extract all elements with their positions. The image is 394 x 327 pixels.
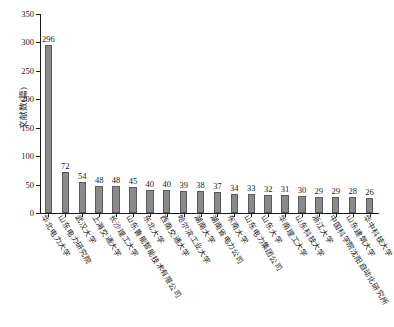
bar-item: 72: [62, 14, 69, 213]
bar-value-label: 30: [298, 186, 307, 195]
bar-item: 34: [231, 14, 238, 213]
bar: [315, 197, 322, 213]
bar-value-label: 26: [365, 188, 374, 197]
bar-item: 31: [281, 14, 288, 213]
bar-value-label: 37: [213, 182, 222, 191]
bar: [62, 172, 69, 213]
bar-item: 37: [214, 14, 221, 213]
bar-value-label: 38: [196, 181, 205, 190]
bar-value-label: 48: [112, 176, 121, 185]
bar-value-label: 48: [95, 176, 104, 185]
bar: [298, 196, 305, 213]
bar-item: 54: [79, 14, 86, 213]
bar: [146, 190, 153, 213]
bar-item: 39: [180, 14, 187, 213]
bar-value-label: 29: [332, 187, 341, 196]
bar: [129, 187, 136, 213]
bar-item: 33: [248, 14, 255, 213]
bar-value-label: 40: [146, 180, 155, 189]
y-tick-label: 150: [21, 123, 34, 132]
y-tick-label: 200: [21, 95, 34, 104]
bar-value-label: 296: [42, 35, 55, 44]
bar-value-label: 39: [179, 181, 188, 190]
bar-item: 26: [366, 14, 373, 213]
bar-value-label: 31: [281, 185, 290, 194]
bar: [248, 194, 255, 213]
bar-value-label: 33: [247, 184, 256, 193]
y-tick-label: 300: [21, 38, 34, 47]
bar: [112, 186, 119, 213]
bar-value-label: 28: [348, 187, 357, 196]
bar: [264, 195, 271, 213]
bar: [332, 197, 339, 213]
bar-series: 2967254484845404039383734333231302929282…: [40, 14, 378, 213]
y-tick-label: 250: [21, 67, 34, 76]
bar: [349, 197, 356, 213]
bar-item: 30: [298, 14, 305, 213]
bar-item: 48: [95, 14, 102, 213]
bar-item: 45: [129, 14, 136, 213]
bar-value-label: 40: [163, 180, 172, 189]
bar-value-label: 72: [61, 162, 70, 171]
bar-item: 38: [197, 14, 204, 213]
bar: [281, 195, 288, 213]
bar-value-label: 34: [230, 184, 239, 193]
bar: [214, 192, 221, 213]
bar-item: 296: [45, 14, 52, 213]
y-tick-label: 50: [26, 180, 35, 189]
bar-item: 29: [315, 14, 322, 213]
bar: [366, 198, 373, 213]
bar-value-label: 32: [264, 185, 273, 194]
bar-value-label: 54: [78, 172, 87, 181]
bar: [163, 190, 170, 213]
y-tick-label: 100: [21, 152, 34, 161]
x-axis-labels: 华北电力大学山东电力研究院武汉大学上海交通大学长沙理工大学山东鲁能智能技术有限公…: [0, 214, 389, 327]
bar: [197, 191, 204, 213]
bar-item: 32: [264, 14, 271, 213]
bar-item: 40: [163, 14, 170, 213]
bar-item: 48: [112, 14, 119, 213]
plot-area: 050100150200250300350 296725448484540403…: [40, 14, 378, 213]
bar: [231, 194, 238, 213]
bar: [45, 45, 52, 213]
bar-item: 28: [349, 14, 356, 213]
bar-item: 40: [146, 14, 153, 213]
bar: [95, 186, 102, 213]
bar: [180, 191, 187, 213]
bar-item: 29: [332, 14, 339, 213]
bar: [79, 182, 86, 213]
y-tick-label: 350: [21, 10, 34, 19]
bar-value-label: 29: [315, 187, 324, 196]
bar-value-label: 45: [129, 177, 138, 186]
